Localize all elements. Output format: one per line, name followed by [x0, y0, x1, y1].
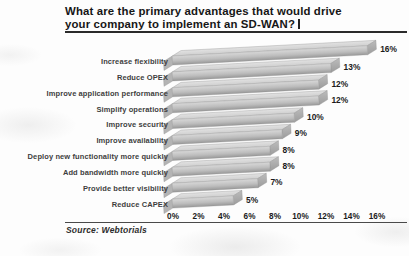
source-note: Source: Webtorials: [66, 225, 147, 235]
category-label: Simplify operations: [97, 105, 169, 114]
category-label: Reduce CAPEX: [112, 200, 168, 209]
bar-3d: [163, 190, 243, 213]
bar-value-label: 9%: [295, 128, 308, 138]
x-tick-label: 8%: [269, 212, 282, 221]
x-tick-label: 6%: [244, 212, 257, 221]
x-tick-label: 10%: [292, 212, 309, 221]
category-label: Improve security: [106, 120, 168, 129]
x-tick-label: 4%: [218, 212, 231, 221]
bar-chart-svg: 16%Increase flexibility13%Reduce OPEX12%…: [0, 0, 409, 256]
category-label: Improve application performance: [47, 89, 168, 98]
category-label: Deploy new functionality more quickly: [28, 152, 169, 161]
x-tick-label: 14%: [343, 212, 360, 221]
footer-divider: [65, 222, 407, 223]
bar-value-label: 12%: [331, 95, 348, 105]
category-label: Improve availability: [96, 136, 168, 145]
category-label: Increase flexibility: [101, 57, 169, 66]
bar-value-label: 12%: [331, 79, 348, 89]
category-label: Reduce OPEX: [117, 73, 168, 82]
bar-value-label: 16%: [380, 44, 397, 54]
category-label: Provide better visibility: [83, 184, 169, 193]
x-tick-label: 16%: [369, 212, 386, 221]
category-label: Add bandwidth more quickly: [63, 168, 169, 177]
bar-value-label: 7%: [270, 177, 283, 187]
x-tick-label: 0%: [167, 212, 180, 221]
x-tick-label: 2%: [193, 212, 206, 221]
x-tick-label: 12%: [318, 212, 335, 221]
bar-value-label: 13%: [344, 62, 361, 72]
bar-value-label: 10%: [307, 112, 324, 122]
bar-value-label: 8%: [283, 145, 296, 155]
bar-value-label: 5%: [246, 195, 259, 205]
scanned-chart-page: What are the primary advantages that wou…: [0, 0, 409, 256]
bar-value-label: 8%: [283, 161, 296, 171]
